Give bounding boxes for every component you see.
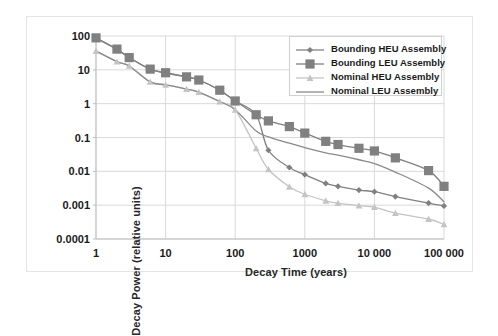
y-tick-label: 0.0001 <box>27 233 90 245</box>
series-1-point <box>285 122 294 131</box>
series-0-point <box>356 187 362 193</box>
series-1-point <box>146 65 155 74</box>
series-0-point <box>392 193 398 199</box>
legend-marker-icon <box>295 84 325 96</box>
series-1-point <box>264 116 273 125</box>
series-1-point <box>112 45 121 54</box>
legend-item[interactable]: Bounding LEU Assembly <box>295 55 435 69</box>
series-0-point <box>286 164 292 170</box>
series-2-point <box>93 48 100 54</box>
legend-item[interactable]: Nominal LEU Assembly <box>295 83 435 97</box>
series-2-point <box>114 58 121 64</box>
y-tick-label: 100 <box>27 30 90 42</box>
series-0-point <box>335 183 341 189</box>
series-1-point <box>161 68 170 77</box>
series-2-point <box>441 221 448 227</box>
y-tick-label: 10 <box>27 64 90 76</box>
series-1-point <box>125 53 134 62</box>
series-2-point <box>286 183 293 189</box>
series-2-point <box>253 145 260 151</box>
series-0-point <box>323 180 329 186</box>
series-0-point <box>441 203 447 209</box>
x-tick-label: 1000 <box>293 247 317 259</box>
legend-item[interactable]: Nominal HEU Assembly <box>295 69 435 83</box>
series-0-point <box>302 172 308 178</box>
series-1-point <box>370 146 379 155</box>
series-2-point <box>126 63 133 69</box>
y-axis-title: Decay Power (relative units) <box>130 186 142 336</box>
legend-marker-icon <box>295 56 325 68</box>
series-1-point <box>91 33 100 42</box>
legend-item-label: Nominal HEU Assembly <box>331 71 439 82</box>
y-tick-label: 0.01 <box>27 165 90 177</box>
series-2-point <box>147 78 154 84</box>
legend-marker-icon <box>295 70 325 82</box>
x-axis-title: Decay Time (years) <box>122 266 470 278</box>
legend-item[interactable]: Bounding HEU Assembly <box>295 41 435 55</box>
chart-frame: 1001010.10.010.0010.0001 110100100010 00… <box>26 16 473 272</box>
series-1-point <box>439 182 448 191</box>
series-1-point <box>215 86 224 95</box>
y-tick-label: 0.001 <box>27 199 90 211</box>
series-1-point <box>231 96 240 105</box>
chart-legend: Bounding HEU AssemblyBounding LEU Assemb… <box>289 36 442 96</box>
legend-item-label: Nominal LEU Assembly <box>331 85 438 96</box>
x-tick-label: 100 <box>226 247 244 259</box>
series-0-point <box>371 189 377 195</box>
series-1-point <box>424 166 433 175</box>
series-1-point <box>300 128 309 137</box>
legend-marker-icon <box>295 42 325 54</box>
series-1-point <box>182 72 191 81</box>
y-tick-label: 1 <box>27 98 90 110</box>
series-1-point <box>333 140 342 149</box>
y-tick-label: 0.1 <box>27 132 90 144</box>
x-tick-label: 10 000 <box>358 247 392 259</box>
series-1-point <box>391 153 400 162</box>
legend-item-label: Bounding HEU Assembly <box>331 43 446 54</box>
legend-item-label: Bounding LEU Assembly <box>331 57 445 68</box>
series-1-point <box>321 137 330 146</box>
series-2-point <box>216 98 223 104</box>
series-1-point <box>194 75 203 84</box>
series-1-point <box>252 110 261 119</box>
x-tick-label: 100 000 <box>424 247 464 259</box>
series-1-point <box>354 144 363 153</box>
